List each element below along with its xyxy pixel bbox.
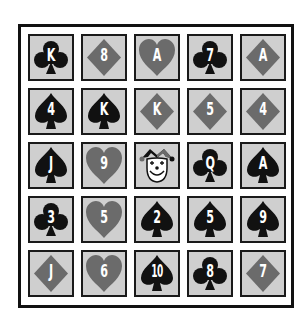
card-rank: 2 bbox=[144, 207, 170, 227]
card-j-of-diamonds[interactable]: J bbox=[28, 250, 74, 297]
card-4-of-spades[interactable]: 4 bbox=[28, 88, 74, 135]
card-4-of-diamonds[interactable]: 4 bbox=[240, 88, 286, 135]
card-rank: 6 bbox=[91, 261, 117, 281]
card-rank: 5 bbox=[91, 207, 117, 227]
card-8-of-clubs[interactable]: 8 bbox=[187, 250, 233, 297]
card-grid: K8A7A4KK54J9QA35259J61087 bbox=[28, 34, 286, 297]
card-a-of-hearts[interactable]: A bbox=[134, 34, 180, 81]
card-3-of-clubs[interactable]: 3 bbox=[28, 196, 74, 243]
card-rank: K bbox=[91, 99, 117, 119]
card-a-of-diamonds[interactable]: A bbox=[240, 34, 286, 81]
card-5-of-spades[interactable]: 5 bbox=[187, 196, 233, 243]
card-rank: 7 bbox=[250, 261, 276, 281]
card-q-of-clubs[interactable]: Q bbox=[187, 142, 233, 189]
card-10-of-spades[interactable]: 10 bbox=[134, 250, 180, 297]
card-rank: 9 bbox=[250, 207, 276, 227]
card-k-of-clubs[interactable]: K bbox=[28, 34, 74, 81]
card-9-of-spades[interactable]: 9 bbox=[240, 196, 286, 243]
card-rank: 8 bbox=[91, 45, 117, 65]
card-6-of-hearts[interactable]: 6 bbox=[81, 250, 127, 297]
game-board-frame: K8A7A4KK54J9QA35259J61087 bbox=[18, 24, 294, 308]
card-rank: 7 bbox=[197, 45, 223, 65]
card-rank: 5 bbox=[197, 207, 223, 227]
card-rank: A bbox=[144, 45, 170, 65]
card-rank: J bbox=[38, 261, 64, 281]
card-rank: Q bbox=[197, 153, 223, 173]
card-7-of-diamonds[interactable]: 7 bbox=[240, 250, 286, 297]
card-k-of-diamonds[interactable]: K bbox=[134, 88, 180, 135]
card-rank: A bbox=[250, 45, 276, 65]
card-rank: 4 bbox=[250, 99, 276, 119]
card-9-of-hearts[interactable]: 9 bbox=[81, 142, 127, 189]
card-8-of-diamonds[interactable]: 8 bbox=[81, 34, 127, 81]
card-rank: 8 bbox=[197, 261, 223, 281]
card-rank: 5 bbox=[197, 99, 223, 119]
card-rank: 10 bbox=[147, 261, 168, 281]
card-rank: 9 bbox=[91, 153, 117, 173]
card-7-of-clubs[interactable]: 7 bbox=[187, 34, 233, 81]
card-rank: 3 bbox=[38, 207, 64, 227]
card-5-of-diamonds[interactable]: 5 bbox=[187, 88, 233, 135]
card-a-of-spades[interactable]: A bbox=[240, 142, 286, 189]
card-rank: A bbox=[250, 153, 276, 173]
card-k-of-spades[interactable]: K bbox=[81, 88, 127, 135]
card-rank: K bbox=[38, 45, 64, 65]
card-2-of-spades[interactable]: 2 bbox=[134, 196, 180, 243]
card-rank: J bbox=[38, 153, 64, 173]
card-j-of-spades[interactable]: J bbox=[28, 142, 74, 189]
card-rank: K bbox=[144, 99, 170, 119]
card-rank: 4 bbox=[38, 99, 64, 119]
card-joker[interactable] bbox=[134, 142, 180, 189]
card-5-of-hearts[interactable]: 5 bbox=[81, 196, 127, 243]
